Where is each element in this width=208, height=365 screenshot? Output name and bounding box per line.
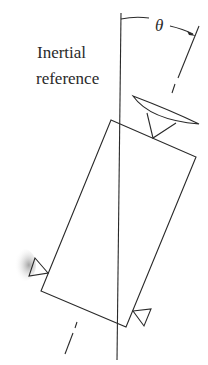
body-axis-upper-dash	[172, 84, 175, 93]
reference-label-line2: reference	[36, 69, 99, 88]
inertial-reference-line	[117, 13, 121, 360]
body-axis-lower	[65, 333, 73, 354]
theta-arc-left	[121, 17, 149, 19]
antenna-dish-icon	[133, 96, 199, 124]
theta-label: θ	[155, 16, 163, 35]
right-thruster-icon	[133, 309, 151, 326]
satellite-attitude-diagram: θ Inertial reference	[0, 0, 208, 365]
body-axis-lower-dash	[75, 322, 77, 328]
reference-label-line1: Inertial	[37, 43, 86, 62]
